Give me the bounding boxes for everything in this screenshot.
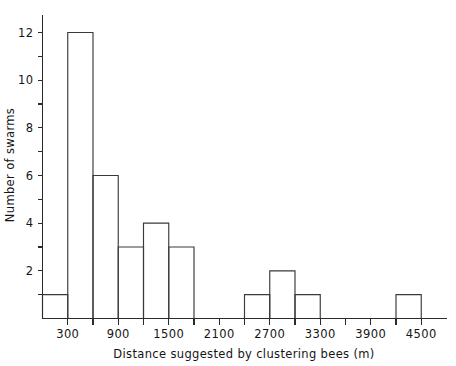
- histogram-bar: [245, 295, 270, 319]
- histogram-bar: [93, 176, 118, 319]
- histogram-figure: 300900150021002700330039004500 24681012 …: [0, 0, 456, 366]
- axes-group: [43, 15, 447, 319]
- histogram-bar: [43, 295, 68, 319]
- histogram-bar: [270, 271, 295, 319]
- histogram-bar: [295, 295, 320, 319]
- x-tick-label: 2100: [204, 327, 235, 341]
- x-tick-label: 2700: [254, 327, 285, 341]
- histogram-plot: 300900150021002700330039004500 24681012 …: [0, 0, 456, 366]
- x-tick-label: 4500: [406, 327, 437, 341]
- histogram-bar: [169, 247, 194, 319]
- x-tick-label: 900: [107, 327, 130, 341]
- x-axis-ticks: [68, 319, 422, 325]
- y-tick-label: 12: [18, 26, 33, 40]
- y-tick-label: 4: [26, 216, 34, 230]
- y-tick-label: 2: [26, 264, 34, 278]
- y-tick-label: 6: [26, 169, 34, 183]
- y-axis-ticks: [38, 33, 43, 295]
- x-tick-label: 300: [56, 327, 79, 341]
- bars-group: [43, 33, 422, 319]
- y-axis-tick-labels: 24681012: [18, 26, 33, 278]
- y-axis-title: Number of swarms: [3, 108, 17, 222]
- x-tick-label: 3900: [355, 327, 386, 341]
- y-tick-label: 8: [26, 121, 34, 135]
- x-axis-title: Distance suggested by clustering bees (m…: [113, 347, 374, 361]
- histogram-bar: [396, 295, 421, 319]
- x-axis-tick-labels: 300900150021002700330039004500: [56, 327, 437, 341]
- y-tick-label: 10: [18, 73, 33, 87]
- x-tick-label: 1500: [153, 327, 184, 341]
- histogram-bar: [68, 33, 93, 319]
- x-tick-label: 3300: [305, 327, 336, 341]
- histogram-bar: [118, 247, 143, 319]
- histogram-bar: [144, 223, 169, 318]
